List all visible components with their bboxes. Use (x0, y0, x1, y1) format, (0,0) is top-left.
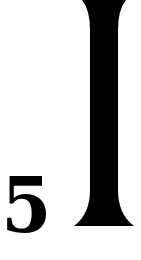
serif-bar-glyph (72, 0, 136, 228)
digit-five: 5 (1, 168, 51, 244)
